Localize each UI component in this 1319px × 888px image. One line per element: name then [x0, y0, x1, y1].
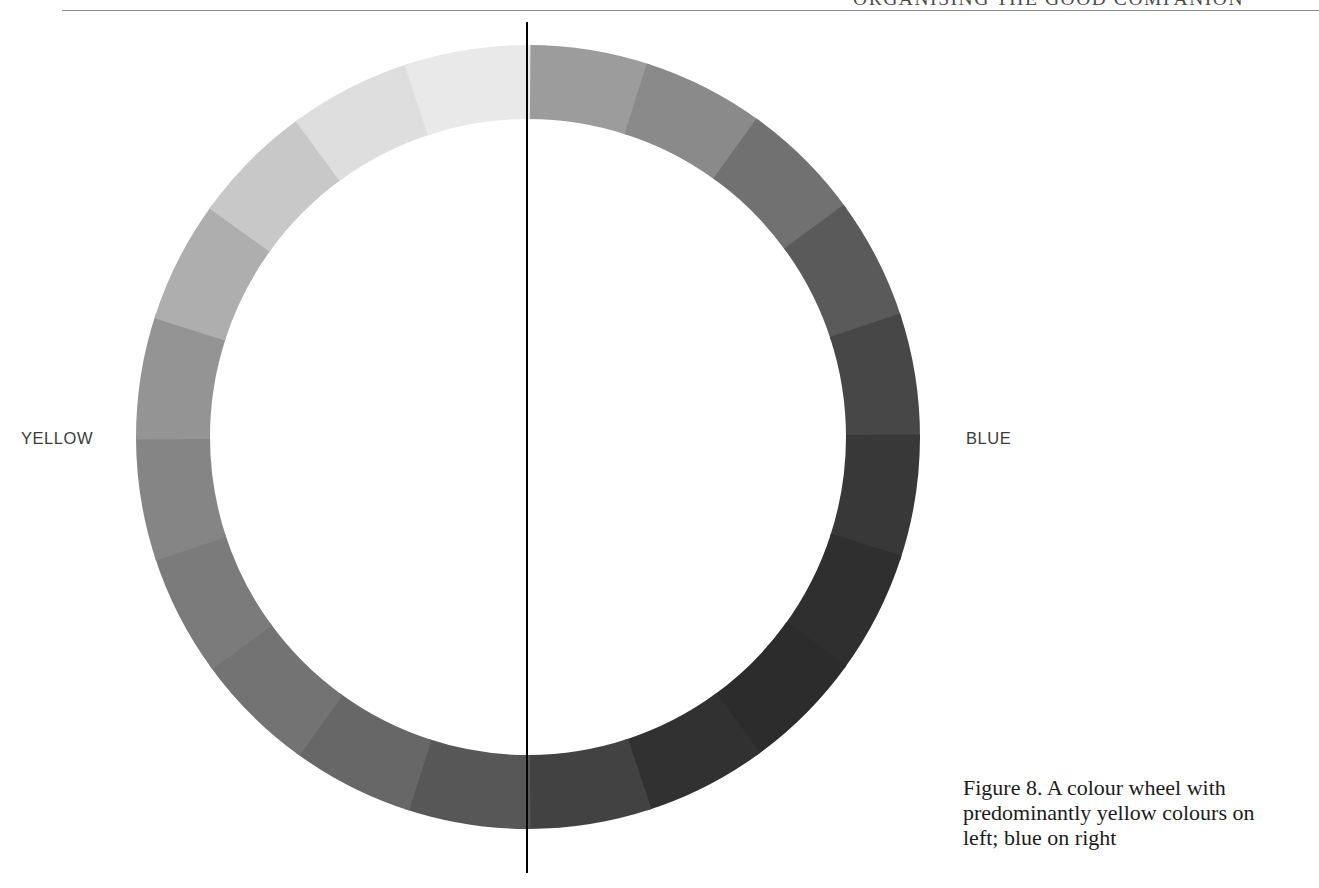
figure-colour-wheel: YELLOW BLUE [0, 0, 1060, 888]
wheel-segment [526, 739, 652, 829]
figure-caption-line-1: Figure 8. A colour wheel with [963, 775, 1293, 800]
wheel-segment [405, 45, 531, 135]
wheel-label-blue: BLUE [966, 429, 1011, 448]
wheel-segment [830, 314, 920, 440]
figure-caption: Figure 8. A colour wheel with predominan… [963, 775, 1293, 850]
wheel-label-yellow: YELLOW [21, 429, 93, 448]
colour-wheel-graphic [0, 0, 1060, 888]
figure-caption-line-2: predominantly yellow colours on [963, 800, 1293, 825]
figure-caption-line-3: left; blue on right [963, 825, 1293, 850]
wheel-segment [136, 435, 226, 561]
